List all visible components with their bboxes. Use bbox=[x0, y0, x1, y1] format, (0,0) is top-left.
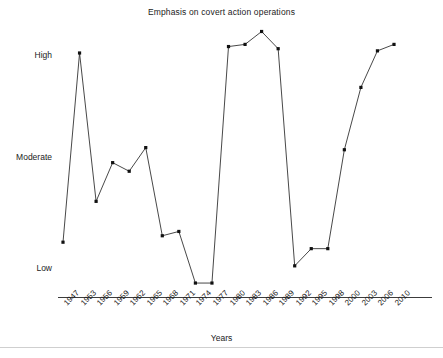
x-tick-label: 1971 bbox=[178, 288, 197, 307]
bottom-divider bbox=[0, 347, 443, 348]
x-tick-label: 1980 bbox=[228, 288, 247, 307]
x-tick-label: 2006 bbox=[376, 288, 395, 307]
x-tick-label: 2003 bbox=[360, 288, 379, 307]
x-tick-label: 1995 bbox=[310, 288, 329, 307]
x-tick-label: 1968 bbox=[161, 288, 180, 307]
x-axis-title: Years bbox=[0, 333, 443, 343]
x-axis-tick-labels: 1947195319561959196219651968197119741977… bbox=[0, 0, 443, 358]
x-tick-label: 1977 bbox=[211, 288, 230, 307]
x-tick-label: 1998 bbox=[327, 288, 346, 307]
x-tick-label: 1959 bbox=[112, 288, 131, 307]
x-tick-label: 1983 bbox=[244, 288, 263, 307]
x-tick-label: 1956 bbox=[95, 288, 114, 307]
x-axis-title-text: Years bbox=[211, 333, 232, 343]
x-tick-label: 1992 bbox=[294, 288, 313, 307]
x-tick-label: 1989 bbox=[277, 288, 296, 307]
chart-figure: Emphasis on covert action operations Hig… bbox=[0, 0, 443, 358]
x-tick-label: 2010 bbox=[393, 288, 412, 307]
x-tick-label: 1947 bbox=[62, 288, 81, 307]
x-tick-label: 1962 bbox=[128, 288, 147, 307]
x-tick-label: 1953 bbox=[79, 288, 98, 307]
x-tick-label: 1974 bbox=[194, 288, 213, 307]
x-tick-label: 1986 bbox=[261, 288, 280, 307]
x-tick-label: 1965 bbox=[145, 288, 164, 307]
x-tick-label: 2000 bbox=[343, 288, 362, 307]
